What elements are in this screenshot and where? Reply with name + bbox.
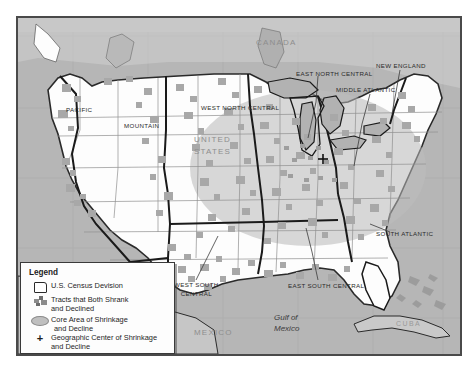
legend-item-geographic-center-line2: and Decline: [51, 342, 90, 351]
gulf-of-mexico-label: Gulf of Mexico: [274, 312, 299, 334]
tract-patch-icon: [29, 295, 51, 306]
mexico-label: MEXICO: [194, 328, 233, 337]
legend: Legend U.S. Census Devision Tracts that …: [20, 262, 175, 354]
division-label-middle-atlantic: MIDDLE ATLANTIC: [336, 86, 395, 93]
division-label-east-north-central: EAST NORTH CENTRAL: [296, 70, 373, 77]
division-label-west-south-central: WEST SOUTH CENTRAL: [174, 280, 219, 298]
canada-landmass: [18, 18, 460, 32]
division-label-pacific: PACIFIC: [66, 106, 92, 113]
legend-item-geographic-center-line1: Geographic Center of Shrinkage: [51, 333, 157, 342]
legend-item-geographic-center: + Geographic Center of Shrinkage and Dec…: [29, 333, 157, 351]
legend-item-census-division-label: U.S. Census Devision: [51, 281, 123, 290]
division-label-south-atlantic: SOUTH ATLANTIC: [376, 230, 433, 237]
united-states-label: UNITED STATES: [194, 134, 231, 158]
gulf-of-mexico-label-line2: Mexico: [274, 324, 299, 333]
legend-item-geographic-center-label: Geographic Center of Shrinkage and Decli…: [51, 333, 157, 351]
division-label-west-north-central: WEST NORTH CENTRAL: [201, 104, 279, 111]
core-ellipse-icon: [29, 315, 51, 326]
division-label-east-south-central: EAST SOUTH CENTRAL: [288, 282, 364, 289]
legend-item-core-area-line1: Core Area of Shrinkage: [51, 315, 128, 324]
division-label-west-south-central-line1: WEST SOUTH: [174, 281, 219, 288]
plus-marker-icon: +: [29, 333, 51, 342]
legend-item-tracts: Tracts that Both Shrank and Declined: [29, 295, 128, 313]
division-label-new-england: NEW ENGLAND: [376, 62, 426, 69]
legend-title: Legend: [29, 268, 58, 277]
division-label-mountain: MOUNTAIN: [124, 122, 159, 129]
cuba-label: CUBA: [396, 320, 421, 327]
united-states-label-line1: UNITED: [194, 135, 231, 144]
legend-item-tracts-line1: Tracts that Both Shrank: [51, 295, 128, 304]
legend-item-tracts-label: Tracts that Both Shrank and Declined: [51, 295, 128, 313]
lake-michigan: [300, 102, 316, 150]
legend-item-core-area-line2: and Decline: [54, 324, 93, 333]
legend-item-census-division: U.S. Census Devision: [29, 281, 123, 293]
legend-item-tracts-line2: and Declined: [51, 304, 94, 313]
united-states-label-line2: STATES: [194, 147, 231, 156]
division-outline-icon: [29, 281, 51, 293]
canada-label: CANADA: [256, 38, 297, 47]
division-label-west-south-central-line2: CENTRAL: [181, 290, 212, 297]
legend-item-core-area: Core Area of Shrinkage and Decline: [29, 315, 128, 333]
legend-item-core-area-label: Core Area of Shrinkage and Decline: [51, 315, 128, 333]
map-figure: CANADA UNITED STATES MEXICO Gulf of Mexi…: [16, 16, 462, 356]
gulf-of-mexico-label-line1: Gulf of: [274, 313, 298, 322]
